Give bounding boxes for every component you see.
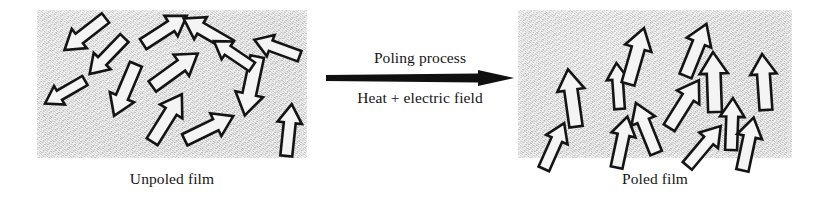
dipole-arrow	[678, 118, 730, 174]
poling-process-group: Poling process Heat + electric field	[326, 50, 514, 107]
dipole-arrow	[137, 6, 194, 55]
poled-dipole-arrows	[518, 10, 792, 158]
poled-film-caption: Poled film	[518, 171, 792, 187]
dipole-arrow	[145, 43, 206, 97]
diagram-canvas: Unpoled film Poling process Heat + elect…	[0, 0, 826, 198]
dipole-arrow	[274, 103, 304, 157]
poling-process-label: Poling process	[326, 50, 514, 66]
dipole-arrow	[658, 73, 710, 134]
dipole-arrow	[554, 67, 589, 128]
dipole-arrow	[40, 71, 91, 113]
poling-conditions-label: Heat + electric field	[326, 90, 514, 106]
process-arrow	[326, 70, 514, 86]
unpoled-film-caption: Unpoled film	[37, 171, 307, 187]
dipole-arrow	[699, 52, 729, 113]
process-arrow-icon	[326, 70, 514, 86]
unpoled-film-panel	[37, 10, 307, 158]
unpoled-dipole-arrows	[37, 10, 307, 158]
dipole-arrow	[749, 53, 779, 111]
poled-film-panel	[518, 10, 792, 158]
dipole-arrow	[179, 105, 239, 151]
